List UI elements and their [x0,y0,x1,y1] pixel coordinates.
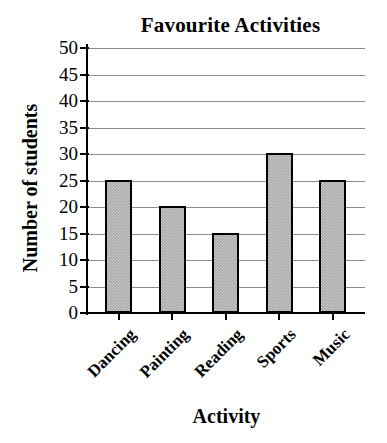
plot-area [88,48,365,313]
bar [212,233,239,314]
y-axis-tick-label: 40 [12,91,78,110]
y-axis-tick [80,127,89,129]
y-axis-tick [80,100,89,102]
y-axis-tick-label: 30 [12,144,78,163]
y-axis-tick-label: 0 [12,303,78,322]
y-axis-tick-label: 45 [12,65,78,84]
y-axis-tick [80,286,89,288]
x-axis-tick [171,313,173,320]
y-axis-tick-label: 20 [12,197,78,216]
x-axis-tick-label-text: Music [308,325,353,370]
y-axis-tick [80,312,89,314]
y-axis-tick [80,47,89,49]
y-axis-tick [80,153,89,155]
bar [159,206,186,313]
y-axis-tick-label: 5 [12,277,78,296]
y-axis-tick [80,74,89,76]
x-axis-tick [278,313,280,320]
y-axis-tick [80,206,89,208]
x-axis-tick [118,313,120,320]
x-axis-title: Activity [88,404,365,428]
gridline [88,75,365,76]
gridline [88,128,365,129]
y-axis-tick-label: 15 [12,224,78,243]
bar [266,153,293,313]
gridline [88,154,365,155]
bar [319,180,346,314]
y-axis-tick-label: 10 [12,250,78,269]
y-axis-tick-label: 35 [12,118,78,137]
y-axis-tick-labels: 50454035302520151050 [0,0,78,443]
x-axis-tick [225,313,227,320]
gridline [88,101,365,102]
y-axis-tick [80,180,89,182]
y-axis-tick-label: 50 [12,38,78,57]
gridline [88,48,365,49]
y-axis-tick [80,259,89,261]
y-axis-tick-label: 25 [12,171,78,190]
x-axis-tick [332,313,334,320]
bar [105,180,132,314]
y-axis-tick [80,233,89,235]
x-axis-tick-label-text: Sports [253,325,300,372]
bar-chart: Favourite Activities Number of students … [0,0,387,443]
chart-title: Favourite Activities [88,12,373,38]
